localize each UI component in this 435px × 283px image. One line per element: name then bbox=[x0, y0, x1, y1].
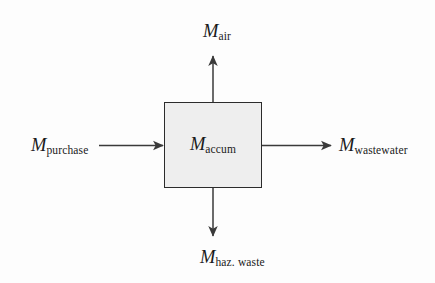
page-bleed-through-text-3 bbox=[300, 198, 357, 218]
page-bleed-through-text-1 bbox=[4, 196, 99, 216]
accum-subscript: accum bbox=[205, 143, 236, 155]
control-volume-box: Maccum bbox=[164, 102, 262, 188]
label-accum: Maccum bbox=[165, 103, 261, 187]
page-bleed-through-text-2 bbox=[2, 246, 86, 268]
accum-variable: M bbox=[190, 134, 205, 154]
haz-waste-subscript: haz. waste bbox=[215, 256, 264, 268]
air-subscript: air bbox=[218, 30, 231, 42]
wastewater-subscript: wastewater bbox=[354, 144, 407, 156]
label-purchase: Mpurchase bbox=[31, 136, 89, 157]
purchase-variable: M bbox=[31, 135, 46, 155]
wastewater-variable: M bbox=[339, 135, 354, 155]
air-variable: M bbox=[203, 21, 218, 41]
mass-balance-diagram: Maccum Mair Mpurchase Mwastewater Mhaz. … bbox=[0, 0, 435, 283]
label-haz-waste: Mhaz. waste bbox=[200, 248, 265, 269]
label-air: Mair bbox=[203, 22, 231, 43]
purchase-subscript: purchase bbox=[46, 144, 88, 156]
haz-waste-variable: M bbox=[200, 247, 215, 267]
label-wastewater: Mwastewater bbox=[339, 136, 408, 157]
